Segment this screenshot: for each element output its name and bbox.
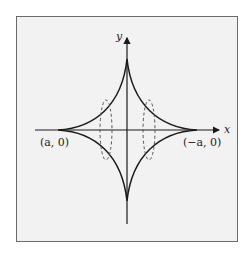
y-axis-label: y: [115, 30, 123, 43]
left-cusp-label: (a, 0): [40, 136, 69, 149]
astroid-diagram: y x (a, 0) (−a, 0): [0, 0, 250, 257]
right-cusp-label: (−a, 0): [183, 136, 221, 149]
x-axis-label: x: [224, 123, 231, 136]
